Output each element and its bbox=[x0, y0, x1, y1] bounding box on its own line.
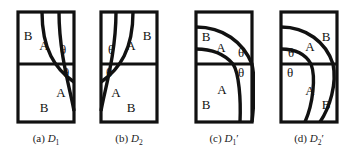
region-label: A bbox=[305, 39, 315, 54]
panel-D2-drawing: θ A B θ A B bbox=[98, 9, 160, 125]
caption-symbol: D bbox=[131, 132, 139, 144]
panel-D2prime-region-labels: θ A B θ A B bbox=[287, 29, 331, 112]
region-label: A bbox=[111, 85, 121, 100]
region-label: A bbox=[217, 82, 227, 97]
region-label: B bbox=[322, 97, 331, 112]
region-label: A bbox=[126, 38, 136, 53]
region-label: B bbox=[202, 97, 211, 112]
region-label: θ bbox=[108, 42, 114, 57]
caption-D2prime: (d) D2′ bbox=[278, 133, 340, 147]
panel-D1-drawing: B A θ θ A B bbox=[15, 9, 77, 125]
region-label: A bbox=[216, 40, 226, 55]
region-label: θ bbox=[60, 42, 66, 57]
caption-prime: ′ bbox=[321, 132, 323, 144]
caption-D1prime: (c) D1′ bbox=[193, 133, 255, 147]
region-label: B bbox=[322, 29, 331, 44]
region-label: θ bbox=[238, 45, 244, 60]
panel-D1prime-drawing: B A θ θ A B bbox=[193, 9, 255, 125]
region-label: A bbox=[56, 85, 66, 100]
region-label: θ bbox=[106, 65, 112, 80]
panel-D1prime: B A θ θ A B bbox=[193, 9, 255, 125]
caption-tag: (d) bbox=[294, 132, 307, 144]
caption-symbol: D bbox=[48, 132, 56, 144]
region-label: θ bbox=[288, 45, 294, 60]
region-label: A bbox=[305, 83, 315, 98]
region-label: A bbox=[39, 38, 49, 53]
caption-subscript: 2 bbox=[139, 138, 143, 147]
panel-D2prime: θ A B θ A B bbox=[278, 9, 340, 125]
region-label: θ bbox=[287, 65, 293, 80]
region-label: θ bbox=[238, 65, 244, 80]
caption-D1: (a) D1 bbox=[15, 133, 77, 147]
caption-tag: (b) bbox=[115, 132, 128, 144]
caption-prime: ′ bbox=[236, 132, 238, 144]
region-label: B bbox=[127, 100, 136, 115]
region-label: B bbox=[202, 29, 211, 44]
caption-tag: (c) bbox=[209, 132, 221, 144]
caption-symbol: D bbox=[310, 132, 318, 144]
region-label: B bbox=[24, 28, 33, 43]
panel-D2: θ A B θ A B bbox=[98, 9, 160, 125]
region-label: θ bbox=[63, 65, 69, 80]
panel-D2prime-drawing: θ A B θ A B bbox=[278, 9, 340, 125]
caption-D2: (b) D2 bbox=[98, 133, 160, 147]
region-label: B bbox=[40, 100, 49, 115]
caption-tag: (a) bbox=[33, 132, 45, 144]
region-label: B bbox=[143, 28, 152, 43]
figure-four-disk-diagrams: B A θ θ A B (a) D1 θ A B θ A B bbox=[0, 0, 359, 163]
panel-D1: B A θ θ A B bbox=[15, 9, 77, 125]
caption-subscript: 1 bbox=[56, 138, 60, 147]
panel-D1-region-labels: B A θ θ A B bbox=[24, 28, 69, 115]
